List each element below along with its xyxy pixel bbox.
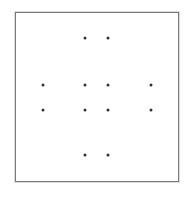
dot-5	[150, 84, 153, 87]
dot-0	[84, 37, 87, 40]
dot-7	[84, 109, 87, 112]
dot-10	[84, 154, 87, 157]
dot-11	[107, 154, 110, 157]
dot-3	[84, 84, 87, 87]
dot-4	[107, 84, 110, 87]
dot-9	[150, 109, 153, 112]
dot-2	[42, 84, 45, 87]
dot-1	[107, 37, 110, 40]
dot-8	[107, 109, 110, 112]
diagram-frame	[15, 12, 179, 182]
dot-6	[42, 109, 45, 112]
